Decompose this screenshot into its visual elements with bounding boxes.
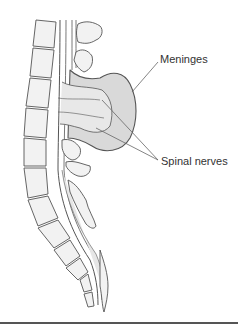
label-meninges: Meninges [160,53,208,65]
bottom-rule [0,322,238,324]
meningeal-sac [58,70,136,151]
leader-meninges [132,62,158,92]
label-spinal-nerves: Spinal nerves [161,155,228,167]
